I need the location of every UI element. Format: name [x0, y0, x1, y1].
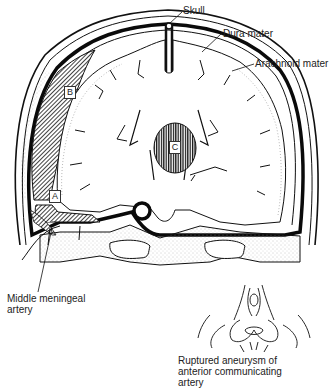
label-middle-meningeal-line1: Middle meningeal [7, 293, 85, 304]
skull-base [40, 225, 300, 265]
label-arachnoid-mater: Arachnoid mater [255, 58, 328, 69]
label-dura-mater: Dura mater [223, 28, 273, 39]
falx [166, 24, 172, 78]
label-aneurysm-line1: Ruptured aneurysm of [178, 355, 277, 366]
aneurysm-inset [198, 285, 310, 352]
region-label-a: A [49, 190, 61, 203]
region-label-b: B [64, 86, 76, 99]
sella-circle [134, 203, 150, 219]
label-middle-meningeal-line2: artery [7, 304, 33, 315]
label-aneurysm-line3: artery [178, 377, 204, 388]
region-label-c: C [169, 141, 181, 154]
label-skull: Skull [183, 5, 205, 16]
label-aneurysm-line2: anterior communicating [178, 366, 282, 377]
